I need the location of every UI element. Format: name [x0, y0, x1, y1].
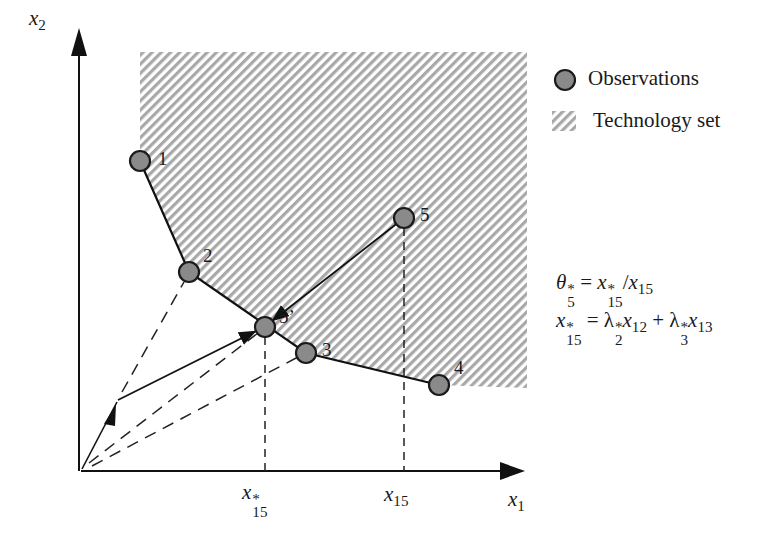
observation-point-3	[296, 343, 316, 363]
point-label-2: 2	[203, 245, 213, 267]
tick-label-x15-star: x*15	[242, 480, 267, 519]
legend-label-observations: Observations	[588, 66, 699, 91]
observation-point-2	[179, 262, 199, 282]
x-axis-label: x1	[508, 487, 525, 515]
hatch-swatch-icon	[552, 111, 578, 135]
dashed-ray-to-2	[122, 282, 184, 392]
observation-point-5	[394, 208, 414, 228]
point-label-3: 3	[322, 339, 332, 361]
dashed-ray-origin-to-3	[92, 357, 298, 466]
tick-label-x15: x15	[384, 482, 408, 510]
dashed-ray-origin-to-5prime	[89, 333, 258, 463]
legend-label-technology-set: Technology set	[593, 108, 720, 133]
equation-theta: θ*5 = x*15/x15	[556, 270, 653, 309]
y-axis-label: x2	[29, 6, 46, 34]
observation-point-5p	[255, 317, 275, 337]
technology-set-region	[140, 52, 527, 388]
observation-marker-icon	[552, 67, 578, 93]
equation-x15-star: x*15 = λ*2x12 + λ*3x13	[556, 308, 713, 347]
y-axis-arrow-icon	[71, 28, 87, 56]
observation-point-1	[130, 151, 150, 171]
observation-point-4	[429, 375, 449, 395]
lambda3-arrowhead-icon	[104, 404, 116, 426]
x-axis-arrow-icon	[500, 462, 525, 480]
point-label-5-prime: 5’	[279, 306, 295, 328]
legend: Observations Technology set	[550, 64, 780, 144]
point-label-4: 4	[454, 357, 464, 379]
point-label-1: 1	[158, 148, 168, 170]
point-label-5: 5	[420, 204, 430, 226]
